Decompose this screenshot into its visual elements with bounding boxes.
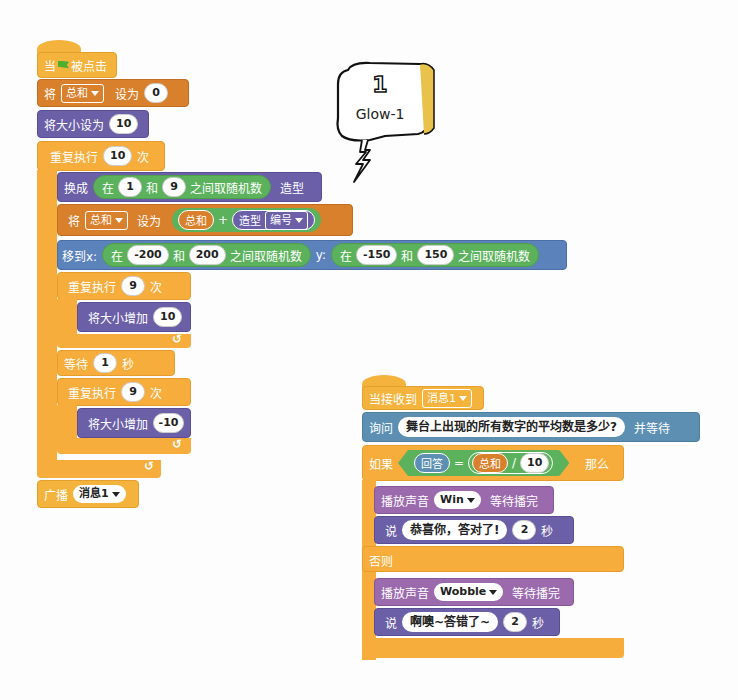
sound-name: Win <box>440 491 464 509</box>
y-to-input[interactable]: 150 <box>417 245 454 265</box>
rand-in-label: 在 <box>111 247 123 264</box>
question-input[interactable]: 舞台上出现的所有数字的平均数是多少? <box>398 417 625 437</box>
repeat-outer-arm <box>37 170 57 465</box>
if-else-foot <box>362 638 624 658</box>
repeat-inner-block-1[interactable]: 重复执行 9 次 <box>57 272 191 300</box>
costume-reporter[interactable]: 造型 编号 <box>232 210 315 230</box>
change-size-block-2[interactable]: 将大小增加 -10 <box>77 408 191 438</box>
repeat-inner-block-2[interactable]: 重复执行 9 次 <box>57 378 191 406</box>
hat-clicked-label: 被点击 <box>71 57 107 74</box>
ask-and-wait-block[interactable]: 询问 舞台上出现的所有数字的平均数是多少? 并等待 <box>362 412 700 442</box>
rand-from-input[interactable]: 1 <box>118 177 142 197</box>
rand-in-label: 在 <box>102 179 114 196</box>
equals-operator[interactable]: 回答 = 总和 / 10 <box>398 450 569 476</box>
set-size-block[interactable]: 将大小设为 10 <box>37 110 149 138</box>
set-label: 将 <box>44 85 56 102</box>
times-label: 次 <box>150 384 162 401</box>
loop-arrow-icon: ↺ <box>172 332 182 346</box>
seconds-label: 秒 <box>122 355 134 372</box>
switch-label: 换成 <box>64 179 88 196</box>
goto-xy-block[interactable]: 移到x: 在 -200 和 200 之间取随机数 y: 在 -150 和 150… <box>57 240 567 270</box>
change-size-block-1[interactable]: 将大小增加 10 <box>77 302 191 332</box>
message-dropdown[interactable]: 消息1 <box>73 485 126 503</box>
set-variable-block[interactable]: 将 总和 设为 0 <box>37 79 189 107</box>
costume-label: 造型 <box>239 212 261 228</box>
sound-dropdown[interactable]: Win <box>434 491 481 509</box>
sprite-number: 1 <box>330 72 430 97</box>
rand-label: 之间取随机数 <box>458 247 530 264</box>
sprite-thumbnail[interactable]: 1 Glow-1 <box>330 60 440 190</box>
random-reporter[interactable]: 在 1 和 9 之间取随机数 <box>93 175 271 199</box>
ask-label: 询问 <box>369 419 393 436</box>
costume-attr-dropdown[interactable]: 编号 <box>265 211 308 230</box>
else-label: 否则 <box>369 552 393 569</box>
say-text-input[interactable]: 恭喜你，答对了! <box>402 520 507 540</box>
rand-and-label: 和 <box>401 247 413 264</box>
message-dropdown[interactable]: 消息1 <box>422 389 472 408</box>
loop-arrow-icon: ↺ <box>172 437 182 451</box>
add-operator[interactable]: 总和 + 造型 编号 <box>172 208 321 232</box>
costume-suffix: 造型 <box>280 179 304 196</box>
if-else-block[interactable]: 如果 回答 = 总和 / 10 那么 <box>362 445 624 481</box>
say-text-input[interactable]: 啊噢~答错了~ <box>402 612 498 632</box>
when-receive-block[interactable]: 当接收到 消息1 <box>362 386 484 410</box>
divisor-input[interactable]: 10 <box>520 453 549 473</box>
repeat-label: 重复执行 <box>68 384 116 401</box>
equals-label: = <box>454 456 464 470</box>
set-variable-block-2[interactable]: 将 总和 设为 总和 + 造型 编号 <box>57 204 353 236</box>
variable-dropdown[interactable]: 总和 <box>61 84 104 103</box>
message-name: 消息1 <box>427 390 456 407</box>
loop-arrow-icon: ↺ <box>144 459 154 473</box>
size-change-input[interactable]: 10 <box>153 307 182 327</box>
x-from-input[interactable]: -200 <box>127 245 169 265</box>
times-label: 次 <box>150 278 162 295</box>
say-secs-input[interactable]: 2 <box>503 612 527 632</box>
say-secs-input[interactable]: 2 <box>512 520 536 540</box>
answer-reporter[interactable]: 回答 <box>414 453 450 473</box>
repeat-outer-foot <box>37 460 161 478</box>
random-x-reporter[interactable]: 在 -200 和 200 之间取随机数 <box>102 243 311 267</box>
receive-label: 当接收到 <box>369 390 417 407</box>
broadcast-label: 广播 <box>44 486 68 503</box>
broadcast-block[interactable]: 广播 消息1 <box>37 480 139 508</box>
play-sound-wobble-block[interactable]: 播放声音 Wobble 等待播完 <box>374 578 574 606</box>
sound-dropdown[interactable]: Wobble <box>434 583 503 601</box>
wait-input[interactable]: 1 <box>93 353 117 373</box>
set-to-label: 设为 <box>137 212 161 229</box>
repeat-count-input[interactable]: 9 <box>121 382 145 402</box>
y-label: y: <box>316 248 326 262</box>
switch-costume-block[interactable]: 换成 在 1 和 9 之间取随机数 造型 <box>57 172 322 202</box>
goto-label: 移到x: <box>62 247 97 264</box>
repeat-count-input[interactable]: 9 <box>121 276 145 296</box>
repeat-count-input[interactable]: 10 <box>103 146 132 166</box>
repeat-inner-arm-1 <box>57 299 77 339</box>
message-name: 消息1 <box>79 485 109 503</box>
random-y-reporter[interactable]: 在 -150 和 150 之间取随机数 <box>331 243 540 267</box>
size-input[interactable]: 10 <box>109 114 138 134</box>
wait-block[interactable]: 等待 1 秒 <box>57 350 175 376</box>
variable-reporter[interactable]: 总和 <box>178 210 214 230</box>
repeat-outer-block[interactable]: 重复执行 10 次 <box>37 141 165 171</box>
if-label: 如果 <box>369 455 393 472</box>
play-sound-win-block[interactable]: 播放声音 Win 等待播完 <box>374 486 554 514</box>
variable-dropdown[interactable]: 总和 <box>85 211 128 230</box>
chevron-down-icon <box>489 590 497 595</box>
set-size-label: 将大小设为 <box>44 116 104 133</box>
divide-operator[interactable]: 总和 / 10 <box>468 452 553 474</box>
when-flag-clicked-block[interactable]: 当被点击 <box>37 52 117 78</box>
say-wobble-block[interactable]: 说 啊噢~答错了~ 2 秒 <box>374 608 560 636</box>
times-label: 次 <box>137 148 149 165</box>
x-to-input[interactable]: 200 <box>189 245 226 265</box>
play-sound-label: 播放声音 <box>381 584 429 601</box>
repeat-inner-foot-2 <box>57 438 191 454</box>
value-input[interactable]: 0 <box>144 83 168 103</box>
divide-label: / <box>512 456 516 470</box>
change-size-label: 将大小增加 <box>88 415 148 432</box>
y-from-input[interactable]: -150 <box>356 245 398 265</box>
until-done-label: 等待播完 <box>512 584 560 601</box>
variable-reporter[interactable]: 总和 <box>472 453 508 473</box>
say-win-block[interactable]: 说 恭喜你，答对了! 2 秒 <box>374 516 574 544</box>
rand-to-input[interactable]: 9 <box>162 177 186 197</box>
size-change-input[interactable]: -10 <box>153 413 184 433</box>
sprite-name: Glow-1 <box>330 106 430 122</box>
